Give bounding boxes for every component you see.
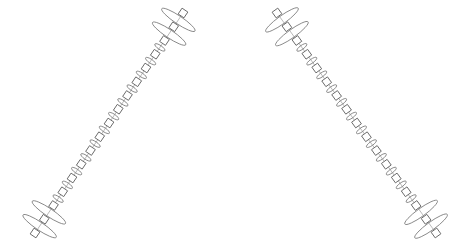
square-node [169,22,179,32]
square-node [352,118,362,128]
square-node [132,77,142,87]
diagram-canvas [0,0,471,248]
square-node [113,104,123,114]
square-node [67,173,77,183]
square-node [401,187,411,197]
square-node [141,63,151,73]
square-node [58,187,68,197]
square-node [95,132,105,142]
square-node [342,104,352,114]
square-node [104,118,114,128]
square-node [391,173,401,183]
left-chain [21,5,197,240]
square-node [371,146,381,156]
square-node [178,8,188,18]
square-node [49,201,59,211]
square-node [362,132,372,142]
square-node [302,49,312,59]
square-node [322,77,332,87]
square-node [86,146,96,156]
square-node [39,214,49,224]
square-node [312,63,322,73]
square-node [76,159,86,169]
square-node [381,159,391,169]
square-node [160,36,170,46]
square-node [332,91,342,101]
right-chain [263,5,449,241]
square-node [123,91,133,101]
square-node [150,49,160,59]
square-node [30,228,40,238]
